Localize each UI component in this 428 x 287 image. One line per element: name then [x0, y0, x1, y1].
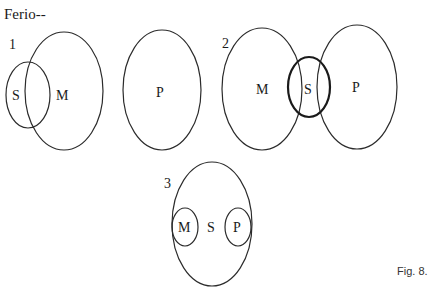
diagram-3: 3 M S P: [164, 162, 252, 286]
set-m-label: M: [178, 220, 191, 235]
set-m-label: M: [56, 88, 69, 103]
diagram-2: 2 M S P: [222, 25, 397, 150]
set-m-label: M: [256, 82, 269, 97]
set-s-label: S: [207, 220, 215, 235]
ferio-diagram: Ferio-- 1 S M P 2 M S P 3 M S P Fig. 8.: [0, 0, 428, 287]
diagram-title: Ferio--: [4, 6, 46, 22]
diagram-3-number: 3: [164, 176, 171, 191]
set-p-label: P: [233, 220, 241, 235]
set-p-label: P: [352, 80, 360, 95]
set-p-label: P: [156, 85, 164, 100]
figure-caption: Fig. 8.: [397, 265, 428, 277]
diagram-1-number: 1: [9, 37, 16, 52]
diagram-1: 1 S M P: [6, 30, 201, 150]
diagram-2-number: 2: [222, 36, 229, 51]
set-s-label: S: [304, 82, 312, 97]
set-s-label: S: [12, 88, 20, 103]
